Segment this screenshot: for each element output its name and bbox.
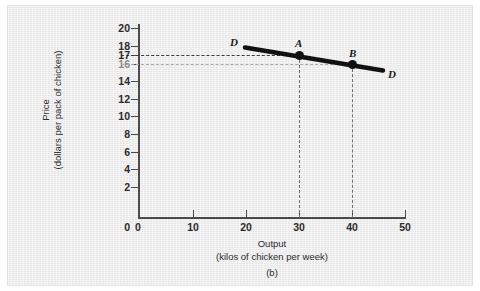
x-tick-label-20: 20 xyxy=(229,221,263,233)
y-tick-mark-4 xyxy=(131,169,138,170)
data-point-a xyxy=(295,51,304,60)
y-tick-mark-10 xyxy=(131,116,138,117)
data-point-b xyxy=(348,60,357,69)
y-tick-mark-12 xyxy=(131,99,138,100)
y-tick-label-4: 4 xyxy=(104,164,130,175)
quantity-guide-line-40 xyxy=(352,64,353,218)
figure-caption: (b) xyxy=(138,267,406,278)
y-tick-label-14: 14 xyxy=(104,76,130,87)
y-tick-mark-6 xyxy=(131,152,138,153)
y-axis-line xyxy=(138,24,140,219)
y-tick-label-8: 8 xyxy=(104,129,130,140)
x-tick-label-40: 40 xyxy=(335,221,369,233)
y-tick-mark-14 xyxy=(131,81,138,82)
x-tick-mark-20 xyxy=(246,210,247,218)
x-tick-label-10: 10 xyxy=(176,221,210,233)
y-tick-label-10: 10 xyxy=(104,111,130,122)
y-tick-label-12: 12 xyxy=(104,94,130,105)
x-tick-mark-10 xyxy=(193,210,194,218)
y-axis-title-main: Price xyxy=(40,35,52,185)
y-tick-mark-20 xyxy=(131,28,138,29)
x-axis-title-sub: (kilos of chicken per week) xyxy=(138,250,406,263)
y-tick-mark-18 xyxy=(131,46,138,47)
figure-panel: 20 18 17 16 14 12 10 8 6 4 2 xyxy=(8,6,472,285)
y-tick-mark-2 xyxy=(131,187,138,188)
x-tick-label-50: 50 xyxy=(388,221,422,233)
x-axis-title-main: Output xyxy=(138,237,406,250)
x-axis-line xyxy=(138,217,406,219)
chart-plot-area: 20 18 17 16 14 12 10 8 6 4 2 xyxy=(8,6,480,291)
curve-label-d-left: D xyxy=(230,36,238,48)
y-tick-label-6: 6 xyxy=(104,147,130,158)
y-tick-mark-8 xyxy=(131,134,138,135)
point-label-b: B xyxy=(349,47,356,59)
y-tick-label-2: 2 xyxy=(104,182,130,193)
price-guide-line-16 xyxy=(121,64,353,65)
y-tick-label-20: 20 xyxy=(104,23,130,34)
curve-label-d-right: D xyxy=(388,68,396,80)
x-tick-label-0: 0 xyxy=(121,221,155,233)
x-tick-mark-50 xyxy=(405,210,406,218)
y-axis-title-sub: (dollars per pack of chicken) xyxy=(52,35,64,185)
x-tick-label-30: 30 xyxy=(282,221,316,233)
point-label-a: A xyxy=(295,37,302,49)
y-axis-title: Price (dollars per pack of chicken) xyxy=(40,35,64,185)
x-axis-title: Output (kilos of chicken per week) xyxy=(138,237,406,263)
price-guide-line-17 xyxy=(121,55,300,56)
quantity-guide-line-30 xyxy=(299,55,300,218)
